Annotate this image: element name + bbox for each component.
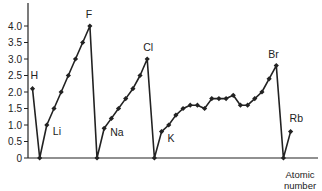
element-label-rb: Rb <box>290 112 304 124</box>
y-tick-label: 2.0 <box>8 87 22 98</box>
element-label-f: F <box>86 8 92 20</box>
data-point-marker <box>94 155 99 160</box>
data-point-marker <box>188 103 193 108</box>
y-tick-label: 3.0 <box>8 54 22 65</box>
data-point-marker <box>80 40 85 45</box>
y-tick-label: 4.0 <box>8 21 22 32</box>
y-tick-label: 0.5 <box>8 136 22 147</box>
y-tick-label: 0 <box>16 153 22 164</box>
data-point-marker <box>37 155 42 160</box>
element-labels: HLiFNaClKBrRb <box>31 8 304 144</box>
data-point-marker <box>152 155 157 160</box>
y-tick-label: 2.5 <box>8 70 22 81</box>
y-tick-label: 1.5 <box>8 103 22 114</box>
data-point-marker <box>216 96 221 101</box>
electronegativity-chart: 00.51.01.52.02.53.03.54.0 HLiFNaClKBrRb … <box>0 0 322 191</box>
chart-canvas: 00.51.01.52.02.53.03.54.0 HLiFNaClKBrRb … <box>0 0 322 191</box>
data-point-marker <box>66 73 71 78</box>
data-point-marker <box>30 86 35 91</box>
element-label-k: K <box>168 132 175 144</box>
element-label-h: H <box>31 69 39 81</box>
y-axis: 00.51.01.52.02.53.03.54.0 <box>8 3 28 164</box>
data-series <box>30 23 293 160</box>
element-label-cl: Cl <box>143 41 153 53</box>
element-label-br: Br <box>268 48 279 60</box>
element-label-na: Na <box>110 126 124 138</box>
element-label-li: Li <box>53 125 61 137</box>
data-point-marker <box>288 129 293 134</box>
data-point-marker <box>87 23 92 28</box>
data-point-marker <box>145 56 150 61</box>
series-line <box>33 26 291 158</box>
data-point-marker <box>281 155 286 160</box>
x-axis-label-line2: number <box>284 180 316 191</box>
y-tick-label: 3.5 <box>8 37 22 48</box>
data-point-marker <box>59 89 64 94</box>
data-point-marker <box>44 122 49 127</box>
data-point-marker <box>195 103 200 108</box>
data-point-marker <box>73 56 78 61</box>
data-point-marker <box>223 96 228 101</box>
data-point-marker <box>51 106 56 111</box>
x-axis-label-line1: Atomic <box>285 169 314 180</box>
y-tick-label: 1.0 <box>8 120 22 131</box>
